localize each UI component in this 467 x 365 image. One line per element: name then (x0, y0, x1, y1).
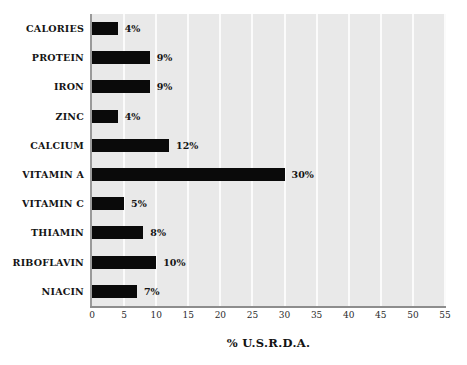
bar (92, 139, 169, 152)
bar-row: VITAMIN C5% (0, 189, 467, 218)
bar (92, 22, 118, 35)
category-label: NIACIN (0, 277, 84, 306)
bar-value-label: 8% (150, 218, 166, 247)
category-label: RIBOFLAVIN (0, 248, 84, 277)
bar-row: VITAMIN A30% (0, 160, 467, 189)
bar-value-label: 4% (125, 14, 141, 43)
bar (92, 110, 118, 123)
x-tick-label: 30 (270, 310, 300, 320)
x-tick-label: 50 (398, 310, 428, 320)
x-tick-label: 5 (109, 310, 139, 320)
x-axis-line (90, 306, 446, 308)
bar-value-label: 7% (144, 277, 160, 306)
x-tick-label: 40 (334, 310, 364, 320)
bar-value-label: 10% (163, 248, 185, 277)
x-tick-label: 25 (237, 310, 267, 320)
bar (92, 226, 143, 239)
bar (92, 51, 150, 64)
x-tick-label: 15 (173, 310, 203, 320)
bar-row: RIBOFLAVIN10% (0, 248, 467, 277)
bar (92, 285, 137, 298)
bar-value-label: 9% (157, 43, 173, 72)
category-label: ZINC (0, 102, 84, 131)
bar-row: CALCIUM12% (0, 131, 467, 160)
bar-chart: CALORIES4%PROTEIN9%IRON9%ZINC4%CALCIUM12… (0, 0, 467, 365)
category-label: PROTEIN (0, 43, 84, 72)
bar (92, 197, 124, 210)
bar-row: IRON9% (0, 72, 467, 101)
x-tick-label: 10 (141, 310, 171, 320)
bar-row: PROTEIN9% (0, 43, 467, 72)
x-tick-label: 0 (77, 310, 107, 320)
category-label: CALCIUM (0, 131, 84, 160)
bar-value-label: 5% (131, 189, 147, 218)
bar-value-label: 30% (292, 160, 314, 189)
bar (92, 168, 285, 181)
bar-row: CALORIES4% (0, 14, 467, 43)
x-tick-label: 20 (205, 310, 235, 320)
category-label: IRON (0, 72, 84, 101)
category-label: THIAMIN (0, 218, 84, 247)
bar (92, 256, 156, 269)
category-label: VITAMIN A (0, 160, 84, 189)
x-axis-title: % U.S.R.D.A. (92, 336, 445, 350)
bar-row: ZINC4% (0, 102, 467, 131)
bar-value-label: 12% (176, 131, 198, 160)
bar-value-label: 4% (125, 102, 141, 131)
x-tick-label: 55 (430, 310, 460, 320)
bar (92, 80, 150, 93)
bar-value-label: 9% (157, 72, 173, 101)
bar-row: THIAMIN8% (0, 218, 467, 247)
category-label: CALORIES (0, 14, 84, 43)
x-tick-label: 45 (366, 310, 396, 320)
x-tick-label: 35 (302, 310, 332, 320)
category-label: VITAMIN C (0, 189, 84, 218)
bar-row: NIACIN7% (0, 277, 467, 306)
